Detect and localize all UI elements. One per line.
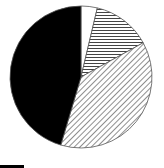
legend-swatch-bar	[0, 165, 24, 168]
pie-chart	[0, 0, 164, 168]
